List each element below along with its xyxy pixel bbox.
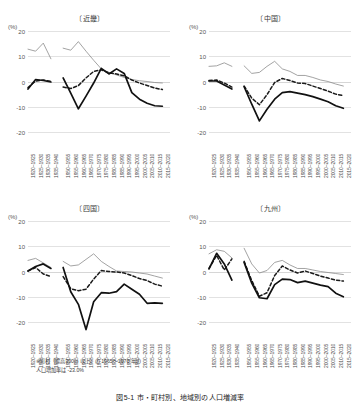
figure-caption: 図5-1 市・町村別、地域別の人口増減率 [0,392,361,409]
series-lines [28,31,170,132]
x-axis-tick-label: 1985~1990 [119,134,125,178]
x-axis-tick-label: 1980~1985 [292,134,298,178]
x-axis-tick-label: 1965~1970 [269,324,275,368]
x-axis-tick-label: 2015~2020 [165,134,171,178]
x-axis-tick-label: 1955~1960 [254,324,260,368]
figure-note-line-2: 人口増加率は -23.0% [36,366,236,375]
y-axis-tick-label: -10 [6,294,25,300]
y-axis-tick-label: 0 [6,269,25,275]
x-axis-tick-label: 2010~2015 [338,324,344,368]
x-axis-tick-label: 1990~1995 [307,134,313,178]
x-axis-tick-label: 1920~1925 [30,134,36,178]
y-axis-tick-label: -20 [6,130,25,136]
y-axis-tick-label: -20 [6,320,25,326]
x-axis-labels: 1920~19251925~19301930~19351935~19401950… [209,134,351,180]
x-axis-tick-label: 1980~1985 [111,134,117,178]
series-line-dashed-postwar [63,70,162,90]
x-axis-tick-label: 1990~1995 [126,134,132,178]
figure-panel-grid: 〔近畿〕 (%) 20100-10-20 1920~19251925~19301… [0,0,361,409]
y-axis-tick-label: -10 [187,104,206,110]
panel-title: 〔四国〕 [0,203,180,213]
series-line-thick-postwar [63,68,162,108]
x-axis-tick-label: 1930~1935 [226,134,232,178]
y-axis-tick-label: -20 [187,130,206,136]
figure-note: ※町村（標高300m 以上）の 1965～1970 年の 人口増加率は -23.… [36,357,236,375]
plot-area: 20100-10-20 [209,221,351,322]
y-axis-tick-label: 10 [6,244,25,250]
y-axis-tick-label: 20 [187,29,206,35]
series-lines [209,221,351,322]
x-axis-tick-label: 1980~1985 [292,324,298,368]
series-line-thin-postwar [63,42,162,83]
x-axis-tick-label: 1970~1975 [277,324,283,368]
x-axis-tick-label: 2005~2010 [330,134,336,178]
panel-title: 〔九州〕 [181,203,361,213]
x-axis-tick-label: 2005~2010 [330,324,336,368]
series-line-thin-postwar [63,254,162,278]
x-axis-tick-label: 1970~1975 [96,134,102,178]
x-axis-tick-label: 1975~1980 [284,324,290,368]
y-axis-tick-label: 0 [187,79,206,85]
y-axis-tick-label: 20 [6,29,25,35]
gridline: -20 [28,132,170,133]
x-axis-tick-label: 2015~2020 [346,134,352,178]
x-axis-tick-label: 2005~2010 [149,134,155,178]
gridline: -20 [28,322,170,323]
series-lines [28,221,170,322]
series-line-thin-postwar [244,248,343,274]
series-line-dashed-postwar [63,270,162,290]
y-axis-tick-label: 10 [6,54,25,60]
y-axis-tick-label: -10 [187,294,206,300]
x-axis-tick-label: 1960~1965 [81,134,87,178]
x-axis-tick-label: 1930~1935 [45,134,51,178]
x-axis-tick-label: 2000~2005 [323,324,329,368]
y-axis-tick-label: 0 [6,79,25,85]
series-line-thin-prewar [209,250,232,258]
x-axis-tick-label: 1970~1975 [277,134,283,178]
x-axis-tick-label: 2010~2015 [157,134,163,178]
x-axis-tick-label: 1935~1940 [53,134,59,178]
panel-title: 〔中国〕 [181,13,361,23]
x-axis-tick-label: 1920~1925 [211,134,217,178]
x-axis-tick-label: 2015~2020 [346,324,352,368]
x-axis-tick-label: 1995~2000 [315,134,321,178]
x-axis-tick-label: 1985~1990 [300,134,306,178]
series-line-thick-postwar [244,262,343,298]
x-axis-tick-label: 1935~1940 [234,134,240,178]
panel-title: 〔近畿〕 [0,13,180,23]
x-axis-tick-label: 2000~2005 [142,134,148,178]
chart-panel-chugoku: 〔中国〕 (%) 20100-10-20 1920~19251925~19301… [181,4,361,200]
x-axis-tick-label: 1960~1965 [262,324,268,368]
chart-panel-kinki: 〔近畿〕 (%) 20100-10-20 1920~19251925~19301… [0,4,180,200]
x-axis-tick-label: 1955~1960 [73,134,79,178]
x-axis-tick-label: 2010~2015 [338,134,344,178]
plot-area: 20100-10-20 [28,221,170,322]
series-line-thin-prewar [209,63,232,67]
x-axis-labels: 1920~19251925~19301930~19351935~19401950… [28,134,170,180]
x-axis-tick-label: 1995~2000 [134,134,140,178]
plot-area: 20100-10-20 [28,31,170,132]
y-axis-tick-label: -20 [187,320,206,326]
y-axis-tick-label: 0 [187,269,206,275]
x-axis-tick-label: 1925~1930 [38,134,44,178]
x-axis-tick-label: 1985~1990 [300,324,306,368]
x-axis-tick-label: 1990~1995 [307,324,313,368]
y-axis-tick-label: 20 [187,219,206,225]
x-axis-tick-label: 1925~1930 [219,134,225,178]
series-line-thin-prewar [28,43,51,59]
x-axis-tick-label: 1975~1980 [284,134,290,178]
series-line-thick-prewar [209,81,232,89]
x-axis-tick-label: 1975~1980 [103,134,109,178]
y-axis-tick-label: 10 [187,244,206,250]
figure-note-line-1: ※町村（標高300m 以上）の 1965～1970 年の [36,357,236,366]
y-axis-tick-label: 20 [6,219,25,225]
x-axis-tick-label: 1955~1960 [254,134,260,178]
series-lines [209,31,351,132]
y-axis-tick-label: -10 [6,104,25,110]
x-axis-tick-label: 1965~1970 [88,134,94,178]
series-line-thick-prewar [209,253,232,280]
gridline: -20 [209,132,351,133]
series-line-thick-postwar [63,267,162,329]
x-axis-tick-label: 1965~1970 [269,134,275,178]
x-axis-tick-label: 1995~2000 [315,324,321,368]
